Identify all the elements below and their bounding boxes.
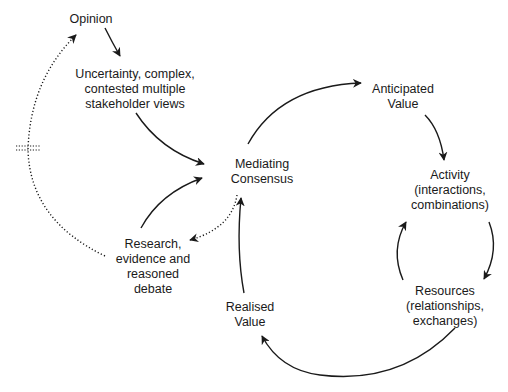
edge-uncertainty-to-mediating: [136, 113, 204, 164]
edge-resources-to-realised: [262, 328, 455, 376]
edge-activity-to-resources: [484, 222, 493, 279]
node-opinion: Opinion: [69, 12, 112, 27]
node-research: Research, evidence and reasoned debate: [116, 237, 190, 297]
node-uncertainty: Uncertainty, complex, contested multiple…: [75, 67, 194, 112]
node-activity: Activity (interactions, combinations): [411, 168, 489, 213]
node-anticipated-value: Anticipated Value: [372, 82, 434, 112]
edge-anticipated-to-activity: [425, 115, 444, 160]
edge-research-to-mediating: [141, 178, 202, 228]
node-resources: Resources (relationships, exchanges): [406, 284, 484, 329]
node-mediating-consensus: Mediating Consensus: [231, 157, 294, 187]
edge-mediating-to-anticipated: [248, 83, 361, 144]
edge-resources-to-activity: [397, 222, 406, 280]
node-realised-value: Realised Value: [226, 300, 275, 330]
edge-mediating-to-research-dotted: [190, 195, 237, 240]
edge-opinion-to-uncertainty: [105, 28, 120, 56]
edge-realised-to-mediating: [239, 198, 244, 293]
